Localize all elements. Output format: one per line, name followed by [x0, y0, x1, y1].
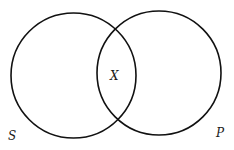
- venn-diagram: X S P: [0, 0, 234, 150]
- set-s-label: S: [8, 129, 16, 143]
- set-p-label: P: [215, 126, 225, 140]
- intersection-label: X: [109, 69, 119, 83]
